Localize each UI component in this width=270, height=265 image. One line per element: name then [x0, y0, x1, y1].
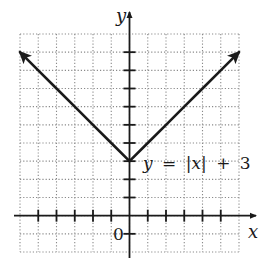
equation-plus: +	[216, 153, 230, 173]
y-axis-label: y	[115, 5, 127, 26]
origin-label: 0	[113, 224, 124, 244]
equation-constant: 3	[240, 153, 251, 173]
equation-label: y = |x| + 3	[142, 153, 251, 173]
x-axis-label: x	[248, 221, 258, 242]
equation-equals: =	[162, 153, 176, 173]
equation-abs-x: |x|	[186, 153, 207, 173]
axes	[14, 12, 256, 258]
absolute-value-graph: y x 0 y = |x| + 3	[0, 0, 270, 265]
equation-y: y	[142, 153, 153, 173]
